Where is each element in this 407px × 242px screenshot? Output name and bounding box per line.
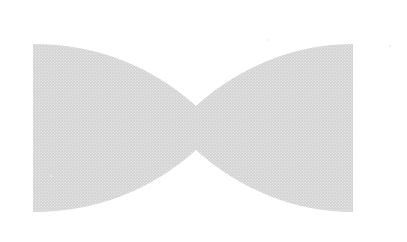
image-canvas: Bowtie silhouette — [0, 0, 407, 242]
bowtie-figure — [0, 0, 407, 242]
